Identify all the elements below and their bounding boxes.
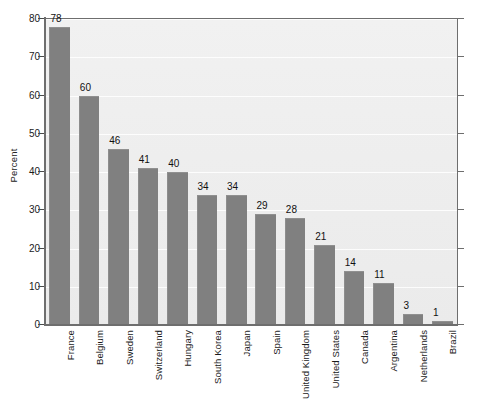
bar-chart: Percent 01020304050607080 78604641403434… [0,0,480,419]
x-axis-category-label: Netherlands [418,330,429,382]
bar-value-label: 41 [139,154,160,165]
x-axis-label-slot: United Kingdom [289,330,301,418]
x-axis-label-slot: South Korea [201,330,213,418]
bar [314,245,335,325]
bar [167,172,188,325]
bar [373,283,394,325]
x-axis-category-label: United States [330,330,341,388]
y-axis-tick-mark [38,209,44,210]
x-axis-category-label: Belgium [94,330,105,365]
y-axis-tick-mark-right [458,56,464,57]
x-axis-label-slot: Switzerland [142,330,154,418]
bar [138,168,159,325]
gridline [45,57,457,58]
y-axis-title-text: Percent [8,148,19,182]
x-axis-category-label: Hungary [182,330,193,367]
bar-value-label: 78 [50,13,71,24]
y-axis-tick-mark [38,248,44,249]
x-axis-category-label: Brazil [447,330,458,354]
bar-value-label: 40 [168,158,189,169]
gridline [45,172,457,173]
bar [108,149,129,325]
gridline [45,210,457,211]
x-axis-category-label: Argentina [388,330,399,372]
x-axis-label-slot: Hungary [171,330,183,418]
gridline [45,96,457,97]
x-axis-category-labels: FranceBelgiumSwedenSwitzerlandHungarySou… [45,328,457,418]
bar-value-label: 14 [345,257,366,268]
y-axis-tick-mark-right [458,209,464,210]
bar [255,214,276,325]
y-axis-tick-mark [38,171,44,172]
bar [285,218,306,325]
gridline [45,134,457,135]
y-axis-tick-mark-right [458,171,464,172]
y-axis-tick-mark-right [458,324,464,325]
bar-value-label: 28 [286,204,307,215]
y-axis-tick-mark-right [458,286,464,287]
y-axis-tick-mark [38,324,44,325]
x-axis-label-slot: United States [319,330,331,418]
bar-value-label: 1 [433,307,454,318]
y-axis-tick-mark [38,133,44,134]
x-axis-label-slot: Belgium [83,330,95,418]
y-axis-tick-mark-right [458,133,464,134]
y-axis-tick-mark [38,18,44,19]
bar-value-label: 34 [198,181,219,192]
x-axis-category-label: United Kingdom [300,330,311,399]
gridline [45,19,457,20]
bar [79,96,100,326]
bar-value-label: 34 [227,181,248,192]
x-axis-category-label: Switzerland [153,330,164,380]
y-axis-line [44,17,46,326]
x-axis-label-slot: Japan [230,330,242,418]
gridline [45,249,457,250]
x-axis-label-slot: Spain [260,330,272,418]
bar-value-label: 29 [256,200,277,211]
x-axis-label-slot: Argentina [377,330,389,418]
x-axis-category-label: Spain [271,330,282,355]
y-axis-tick-mark-right [458,18,464,19]
plot-area: 78604641403434292821141131 [45,18,458,325]
x-axis-label-slot: France [54,330,66,418]
y-axis-tick-mark-right [458,248,464,249]
x-axis-line [44,324,458,326]
bar-value-label: 46 [109,135,130,146]
x-axis-label-slot: Canada [348,330,360,418]
bar [226,195,247,325]
x-axis-category-label: Sweden [124,330,135,365]
x-axis-category-label: Canada [359,330,370,364]
bar-value-label: 60 [80,82,101,93]
x-axis-category-label: South Korea [212,330,223,384]
y-axis-tick-mark [38,286,44,287]
bar [49,27,70,325]
x-axis-label-slot: Sweden [113,330,125,418]
y-axis-tick-labels: 01020304050607080 [18,0,40,330]
y-axis-tick-mark [38,95,44,96]
bar-value-label: 11 [374,269,395,280]
y-axis-tick-mark-right [458,95,464,96]
bar-value-label: 21 [315,231,336,242]
bar [197,195,218,325]
x-axis-label-slot: Brazil [436,330,448,418]
gridline [45,287,457,288]
x-axis-category-label: Japan [241,330,252,356]
bar [344,271,365,325]
x-axis-label-slot: Netherlands [407,330,419,418]
x-axis-category-label: France [65,330,76,360]
y-axis-tick-mark [38,56,44,57]
bar-value-label: 3 [404,300,425,311]
